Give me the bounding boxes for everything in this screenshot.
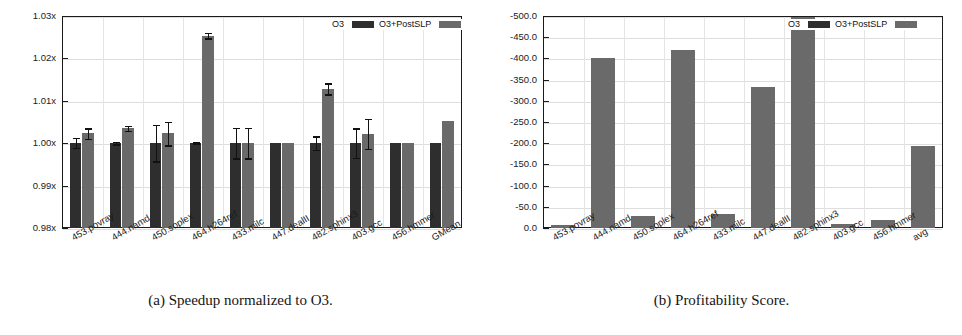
error-bar-cap [125,126,132,127]
error-bar-cap [365,119,372,120]
y-axis-tick-label: -300.0 [483,96,537,106]
y-axis-tick [543,228,549,229]
gridline-vertical [624,17,625,227]
error-bar-cap [113,142,120,143]
plot-area-speedup: 0.98x0.99x1.00x1.01x1.02x1.03x O3 O3+Pos… [0,0,481,280]
error-bar-cap [325,94,332,95]
gridline-horizontal [63,102,461,103]
legend-swatch-o3 [352,21,374,28]
y-axis-tick [62,16,68,17]
y-axis-tick [62,58,68,59]
plot-area-profitability: 0.0-50.0-100.0-150.0-200.0-250.0-300.0-3… [481,0,962,280]
gridline-vertical [183,17,184,227]
error-bar-cap [153,161,160,162]
y-axis-tick-label: -200.0 [483,138,537,148]
gridline-vertical [824,17,825,227]
error-bar-cap [233,158,240,159]
error-bar-cap [205,38,212,39]
legend-label-o3: O3 [788,20,800,29]
y-axis-tick [62,228,68,229]
error-bar [316,136,317,150]
error-bar-cap [313,136,320,137]
gridline-vertical [744,17,745,227]
y-axis-tick-label: -150.0 [483,159,537,169]
error-bar-cap [125,131,132,132]
error-bar-cap [165,145,172,146]
gridline-horizontal [63,17,461,18]
gridline-vertical [904,17,905,227]
error-bar-cap [85,139,92,140]
gridline-vertical [223,17,224,227]
y-axis-tick-label: -450.0 [483,32,537,42]
error-bar-cap [85,128,92,129]
error-bar [328,83,329,94]
gridline-vertical [343,17,344,227]
y-axis-tick [543,58,549,59]
gridline-vertical [263,17,264,227]
y-axis-tick-label: -100.0 [483,181,537,191]
bar [282,143,294,228]
legend-profitability: O3 O3+PostSLP [786,19,919,30]
gridline-vertical [383,17,384,227]
bar [82,133,94,228]
y-axis-tick-label: -500.0 [483,11,537,21]
error-bar [76,138,77,148]
error-bar [236,128,237,159]
y-axis-tick [543,37,549,38]
error-bar-cap [365,149,372,150]
bar [70,143,82,228]
bar [162,133,174,228]
panel-speedup: 0.98x0.99x1.00x1.01x1.02x1.03x O3 O3+Pos… [0,0,481,335]
y-axis-tick [543,164,549,165]
bar [270,143,282,228]
legend-swatch-postslp [439,21,461,28]
error-bar-cap [325,83,332,84]
bar [402,143,414,228]
bar [751,87,775,228]
bar [390,143,402,228]
y-axis-tick-label: -50.0 [483,202,537,212]
caption-panel-a: (a) Speedup normalized to O3. [0,292,481,309]
error-bar-cap [313,150,320,151]
panel-profitability: 0.0-50.0-100.0-150.0-200.0-250.0-300.0-3… [481,0,962,335]
bar [310,143,322,228]
y-axis-tick-label: 1.03x [6,11,56,21]
gridline-vertical [664,17,665,227]
y-axis-tick-label: -250.0 [483,117,537,127]
legend-speedup: O3 O3+PostSLP [330,19,463,30]
y-axis-tick [543,143,549,144]
y-axis-tick-label: -400.0 [483,53,537,63]
gridline-vertical [864,17,865,227]
legend-swatch-o3 [808,21,830,28]
error-bar [156,125,157,161]
y-axis-tick-label: 1.01x [6,96,56,106]
bar [591,58,615,228]
legend-label-o3: O3 [332,20,344,29]
bar [791,17,815,228]
error-bar [168,122,169,146]
error-bar-cap [113,144,120,145]
error-bar-cap [165,122,172,123]
figure-container: 0.98x0.99x1.00x1.01x1.02x1.03x O3 O3+Pos… [0,0,962,335]
x-axis-labels-speedup: 453.povray444.namd450.soplex464.h264ref4… [0,230,481,290]
gridline-vertical [584,17,585,227]
legend-label-postslp: O3+PostSLP [835,20,887,29]
bar [202,36,214,228]
bar [671,50,695,228]
error-bar-cap [73,138,80,139]
y-axis-tick [543,186,549,187]
gridline-vertical [103,17,104,227]
y-axis-tick-label: 0.99x [6,181,56,191]
y-axis-tick [62,143,68,144]
gridline-vertical [784,17,785,227]
error-bar-cap [73,148,80,149]
y-axis-tick [543,16,549,17]
y-axis-tick-label: 1.02x [6,53,56,63]
legend-swatch-postslp [895,21,917,28]
error-bar [356,128,357,158]
error-bar [88,128,89,138]
gridline-horizontal [544,17,942,18]
y-axis-tick [62,186,68,187]
error-bar-cap [245,158,252,159]
y-axis-tick-label: 1.00x [6,138,56,148]
